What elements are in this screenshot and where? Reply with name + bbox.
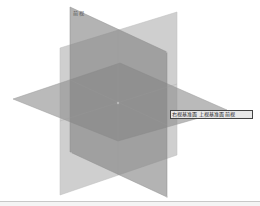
viewport-bottom-border xyxy=(0,201,260,206)
graphics-viewport[interactable]: 前视 右视基准面 上视基准面 前视 xyxy=(0,0,260,206)
front-plane-corner-handle[interactable] xyxy=(166,51,168,53)
front-plane-label: 前视 xyxy=(73,9,84,16)
reference-planes-scene[interactable] xyxy=(0,0,260,206)
front-plane-corner-handle[interactable] xyxy=(166,196,168,198)
front-plane-corner-handle[interactable] xyxy=(70,152,72,154)
origin-point-icon[interactable] xyxy=(117,102,119,104)
plane-tooltip: 右视基准面 上视基准面 前视 xyxy=(170,110,253,119)
